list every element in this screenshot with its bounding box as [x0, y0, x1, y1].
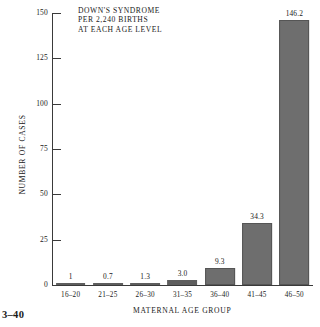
- bar-value-label: 34.3: [250, 212, 264, 221]
- x-axis-category-label: 31–35: [164, 291, 201, 299]
- bar-value-label: 1.3: [140, 272, 150, 281]
- bar-slot: 1: [52, 13, 89, 285]
- bar-slot: 34.3: [238, 13, 275, 285]
- y-axis-tick-label: 125: [18, 54, 48, 62]
- bar: [130, 283, 160, 286]
- figure-number: 3–40: [2, 309, 24, 320]
- y-axis-label: NUMBER OF CASES: [18, 95, 27, 215]
- y-axis-tick-label: 150: [18, 9, 48, 17]
- bar-slot: 0.7: [89, 13, 126, 285]
- chart-figure: DOWN'S SYNDROME PER 2,240 BIRTHS AT EACH…: [0, 0, 320, 327]
- x-axis-category-label: 46–50: [276, 291, 313, 299]
- bar-slot: 146.2: [276, 13, 313, 285]
- bar-slot: 3.0: [164, 13, 201, 285]
- x-axis-category-label: 36–40: [201, 291, 238, 299]
- bar: [93, 283, 123, 286]
- bar: [242, 223, 272, 285]
- y-axis-tick-label: 25: [18, 236, 48, 244]
- x-axis-category-label: 41–45: [238, 291, 275, 299]
- x-axis-category-label: 26–30: [127, 291, 164, 299]
- x-axis-category-label: 16–20: [52, 291, 89, 299]
- y-axis-tick: [53, 285, 61, 286]
- x-axis-line: [52, 285, 313, 286]
- bar: [56, 283, 86, 286]
- bar: [279, 20, 309, 285]
- bar-value-label: 3.0: [178, 269, 188, 278]
- y-axis-tick-label: 0: [18, 281, 48, 289]
- x-axis-category-label: 21–25: [89, 291, 126, 299]
- bar-value-label: 9.3: [215, 257, 225, 266]
- bar-value-label: 0.7: [103, 272, 113, 281]
- bar: [168, 280, 198, 285]
- bar-slot: 1.3: [127, 13, 164, 285]
- bar: [205, 268, 235, 285]
- x-axis-label: MATERNAL AGE GROUP: [133, 306, 231, 315]
- bar-slot: 9.3: [201, 13, 238, 285]
- bar-value-label: 1: [69, 272, 73, 281]
- bar-series: 10.71.33.09.334.3146.2: [52, 13, 313, 285]
- bar-value-label: 146.2: [286, 9, 303, 18]
